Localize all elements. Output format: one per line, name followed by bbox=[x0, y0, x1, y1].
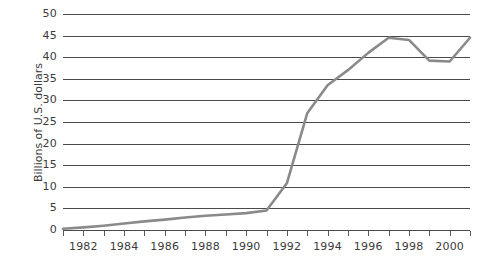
x-tick-1984 bbox=[124, 231, 125, 236]
x-tick-1981 bbox=[63, 231, 64, 236]
x-tick-label-1986: 1986 bbox=[143, 240, 187, 253]
x-tick-label-1984: 1984 bbox=[102, 240, 146, 253]
x-tick-label-1996: 1996 bbox=[346, 240, 390, 253]
x-tick-1993 bbox=[307, 231, 308, 236]
gridline-y-30 bbox=[63, 100, 470, 101]
x-tick-label-1994: 1994 bbox=[306, 240, 350, 253]
y-axis-tick-labels: 05101520253035404550 bbox=[0, 0, 57, 263]
x-tick-1983 bbox=[104, 231, 105, 236]
gridline-y-20 bbox=[63, 144, 470, 145]
x-tick-1985 bbox=[144, 231, 145, 236]
y-tick-label-35: 35 bbox=[17, 72, 57, 85]
x-tick-label-1992: 1992 bbox=[265, 240, 309, 253]
x-tick-2001 bbox=[470, 231, 471, 236]
x-tick-1992 bbox=[287, 231, 288, 236]
y-tick-label-20: 20 bbox=[17, 137, 57, 150]
gridline-y-25 bbox=[63, 122, 470, 123]
x-tick-1982 bbox=[83, 231, 84, 236]
x-tick-1988 bbox=[205, 231, 206, 236]
x-tick-1995 bbox=[348, 231, 349, 236]
gridline-y-5 bbox=[63, 208, 470, 209]
x-tick-1994 bbox=[328, 231, 329, 236]
y-tick-label-40: 40 bbox=[17, 50, 57, 63]
gridline-y-40 bbox=[63, 57, 470, 58]
x-tick-1991 bbox=[267, 231, 268, 236]
x-tick-label-1982: 1982 bbox=[61, 240, 105, 253]
gridline-y-50 bbox=[63, 14, 470, 15]
y-tick-label-50: 50 bbox=[17, 7, 57, 20]
x-tick-1989 bbox=[226, 231, 227, 236]
gridline-y-15 bbox=[63, 165, 470, 166]
y-tick-label-30: 30 bbox=[17, 93, 57, 106]
x-tick-1998 bbox=[409, 231, 410, 236]
x-tick-label-1998: 1998 bbox=[387, 240, 431, 253]
x-tick-1990 bbox=[246, 231, 247, 236]
plot-area bbox=[63, 14, 470, 230]
gridline-y-45 bbox=[63, 36, 470, 37]
y-tick-label-5: 5 bbox=[17, 201, 57, 214]
x-tick-label-1990: 1990 bbox=[224, 240, 268, 253]
x-tick-1996 bbox=[368, 231, 369, 236]
line-chart: Billions of U.S. dollars 051015202530354… bbox=[0, 0, 495, 263]
gridline-y-35 bbox=[63, 79, 470, 80]
x-tick-1987 bbox=[185, 231, 186, 236]
x-tick-1986 bbox=[165, 231, 166, 236]
x-tick-1999 bbox=[429, 231, 430, 236]
x-tick-label-1988: 1988 bbox=[183, 240, 227, 253]
y-tick-label-10: 10 bbox=[17, 180, 57, 193]
y-tick-label-15: 15 bbox=[17, 158, 57, 171]
gridline-y-10 bbox=[63, 187, 470, 188]
y-tick-label-0: 0 bbox=[17, 223, 57, 236]
y-tick-label-45: 45 bbox=[17, 29, 57, 42]
x-tick-label-2000: 2000 bbox=[428, 240, 472, 253]
y-tick-label-25: 25 bbox=[17, 115, 57, 128]
x-tick-1997 bbox=[389, 231, 390, 236]
x-tick-2000 bbox=[450, 231, 451, 236]
